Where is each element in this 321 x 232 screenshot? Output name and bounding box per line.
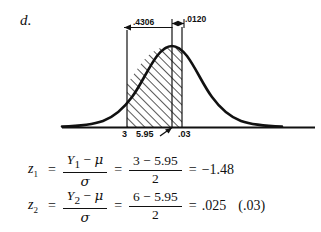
z1-num-minus: −	[83, 152, 91, 167]
z2-equals-2: =	[114, 198, 122, 214]
z2-lhs: z2	[28, 197, 38, 215]
z1-num-mu: μ	[94, 151, 103, 167]
normal-curve-svg	[0, 0, 321, 150]
equation-z2: z2 = Y2 − μ σ = 6 − 5.95 2 = .025 (.03)	[0, 188, 321, 224]
equations-block: z1 = Y1 − μ σ = 3 − 5.95 2 = −1.48 z2 =	[0, 152, 321, 224]
z2-num-minus: −	[83, 188, 91, 203]
label-left-area: .4306	[133, 17, 154, 27]
axis-label-mean: 5.95	[136, 129, 154, 139]
z1-lhs: z1	[28, 161, 38, 179]
equation-z1: z1 = Y1 − μ σ = 3 − 5.95 2 = −1.48	[0, 152, 321, 188]
dimension-right-area	[172, 19, 184, 28]
z1-equals-1: =	[48, 162, 56, 178]
axis-label-upper-bound: .03	[178, 129, 191, 139]
z1-equals-3: =	[189, 162, 197, 178]
z1-fraction-numeric: 3 − 5.95 2	[129, 154, 182, 185]
z2-numerator-numeric: 6 − 5.95	[129, 190, 182, 205]
z2-denominator-numeric: 2	[148, 207, 163, 222]
z1-numerator-symbolic: Y1 − μ	[63, 152, 107, 172]
z2-equals-3: =	[189, 198, 197, 214]
z2-note: (.03)	[238, 198, 265, 214]
z2-subscript: 2	[33, 205, 38, 215]
figure-page: d.	[0, 0, 321, 232]
z2-result: .025	[202, 198, 227, 214]
z2-denominator-symbolic: σ	[76, 209, 93, 224]
z1-fraction-symbolic: Y1 − μ σ	[63, 152, 107, 188]
label-right-area: .0120	[185, 14, 206, 24]
z1-denominator-numeric: 2	[148, 171, 163, 186]
z1-equals-2: =	[114, 162, 122, 178]
z2-equals-1: =	[48, 198, 56, 214]
z1-denominator-symbolic: σ	[76, 173, 93, 188]
z1-result: −1.48	[202, 162, 234, 178]
z2-num-subscript: 2	[74, 194, 80, 206]
z2-fraction-symbolic: Y2 − μ σ	[63, 188, 107, 224]
z1-num-subscript: 1	[74, 158, 80, 170]
z2-numerator-symbolic: Y2 − μ	[63, 188, 107, 208]
z2-num-mu: μ	[94, 187, 103, 203]
z1-subscript: 1	[33, 169, 38, 179]
axis-label-lower-bound: 3	[122, 129, 127, 139]
normal-curve-figure: .4306 .0120 3 5.95 .03	[0, 0, 321, 150]
z2-fraction-numeric: 6 − 5.95 2	[129, 190, 182, 221]
z1-numerator-numeric: 3 − 5.95	[129, 154, 182, 169]
mean-pointer-arrow	[160, 128, 172, 137]
